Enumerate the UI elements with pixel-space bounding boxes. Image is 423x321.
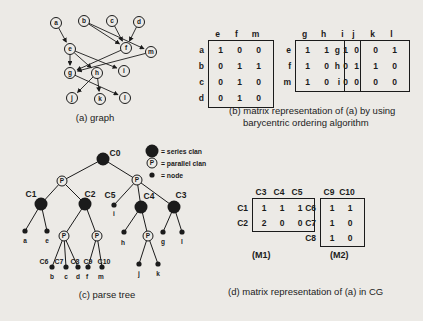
matrix-row-labels: C1C2 [235,198,252,232]
graph-edge-d-f [130,27,137,41]
matrix-cell: 1 [385,42,404,58]
tree-leaf-letter-j: j [137,270,140,278]
matrix-cell: 1 [341,200,359,215]
matrix-row-labels: C6C7C8 [303,198,320,247]
matrix-cell: 1 [273,200,291,215]
matrix-col-header: m [246,27,265,40]
matrix-cell: 0 [347,42,366,58]
graph-node-label-j: j [70,94,73,102]
matrix-value-row: 10 [323,215,359,230]
matrix-cell: 1 [323,230,341,245]
matrix-cell: 1 [230,90,249,106]
matrix-row-label: g [331,42,344,58]
tree-clan-label-C5: C5 [105,190,116,200]
tree-clan-label-C7: C7 [55,258,64,265]
tree-leaf-letter-a: a [23,237,27,244]
matrix-col-header: C9 [320,185,338,198]
node-dot-icon [155,261,160,266]
matrix-row-label: a [195,42,208,58]
series-clan-icon [79,198,92,211]
matrix-col-header: C10 [338,185,356,198]
matrix-col-header: e [208,27,227,40]
matrix-value-row: 111 [255,200,309,215]
legend-label-leaf: = node [161,172,183,179]
node-dot-icon [160,229,165,234]
matrix-header-row: jkl [344,27,410,40]
matrix-col-header: k [363,27,382,40]
matrix-value-row: 010 [211,74,268,90]
matrix-b-caption-line2: barycentric ordering algorithm [243,117,395,129]
matrix-value-box: 100011010010 [208,40,274,108]
node-dot-icon [179,229,184,234]
matrix-cell: 0 [347,74,366,90]
graph-caption: (a) graph [40,112,150,123]
parse-tree-caption: (c) parse tree [52,289,162,300]
tree-clan-label-C4: C4 [144,191,155,201]
matrix-cell: 0 [273,215,291,230]
matrix-header-row: efm [208,27,274,40]
tree-clan-label-C2: C2 [85,189,96,199]
node-dot-icon [136,261,141,266]
graph-node-label-k: k [98,95,102,102]
matrix-value-row: 10 [323,230,359,245]
graph-node-label-a: a [54,19,58,26]
matrix-row-label: i [331,74,344,90]
matrix-col-header: l [382,27,401,40]
node-dot-icon [121,229,126,234]
matrix-cell: 0 [249,90,268,106]
matrix-value-box: 001110000 [344,40,410,92]
matrix-cell: 0 [211,74,230,90]
matrix-row-labels: efm [282,40,295,92]
matrix-row-label: e [282,42,295,58]
matrix-col-header: C4 [270,185,288,198]
matrix-value-row: 200 [255,215,309,230]
tree-leaf-letter-d: d [76,273,80,280]
figure-root: abcdefmghijklC0PPC1C2C5iC4C3aePPC6bC7cC8… [0,0,423,321]
parallel-clan-p-label: P [146,232,151,239]
graph-edge-a-e [59,28,67,42]
legend: = series clanP= parallel clan= node [146,145,207,179]
matrix-cell: 0 [366,42,385,58]
matrix-row-label: m [282,74,295,90]
matrix-cell: 1 [323,215,341,230]
matrix-body: abcd100011010010 [195,40,274,108]
matrix-cell: 1 [298,74,317,90]
matrix-col-header: j [344,27,363,40]
matrix-cell: 0 [211,90,230,106]
tree-leaf-letter-e: e [45,237,49,244]
matrix-row-label: c [195,74,208,90]
graph-node-label-h: h [95,69,99,76]
matrix-b-caption: (b) matrix representation of (a) by usin… [229,105,395,129]
matrix-value-row: 000 [347,74,404,90]
matrix-col-header: g [295,27,314,40]
graph-edge-e-h [74,53,91,68]
graph-edge-h-k [98,78,99,91]
tree-leaf-letter-g: g [161,238,165,246]
tree-leaf-letter-l: l [181,238,183,245]
matrix-value-row: 010 [211,90,268,106]
tree-clan-label-C8: C8 [71,258,80,265]
graph-node-label-g: g [68,69,72,77]
series-clan-icon [168,201,181,214]
matrix-row-label: f [282,58,295,74]
parallel-clan-p-label: P [62,232,67,239]
node-dot-icon [75,264,80,269]
tree-edge-C0-PL [62,159,103,181]
matrix-body: ghi001110000 [331,40,410,92]
graph-node-label-d: d [137,18,141,25]
tree-clan-label-C9: C9 [84,258,93,265]
series-clan-icon [35,198,48,211]
node-dot-icon [49,264,54,269]
matrix-row-label: b [195,58,208,74]
matrix-cell: 0 [341,230,359,245]
parallel-clan-p-label: P [95,232,100,239]
matrix-row-label: C2 [235,215,252,230]
matrix-m2-label: (M2) [330,250,349,260]
matrix-m1-label: (M1) [252,250,271,260]
matrix-value-row: 001 [347,42,404,58]
matrix-body: C6C7C8111010 [303,198,365,247]
graph-node-label-b: b [82,17,86,24]
matrix-value-row: 11 [323,200,359,215]
tree-clan-label-C1: C1 [26,189,37,199]
graph-edge-h-j [78,77,93,92]
